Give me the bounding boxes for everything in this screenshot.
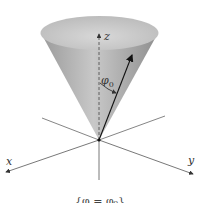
x-axis-label: x <box>6 156 12 167</box>
phi-subscript: 0 <box>109 80 114 89</box>
apex <box>97 138 100 141</box>
front-axes <box>6 140 193 180</box>
cone-svg <box>0 0 200 203</box>
cone-diagram: z x y φ0 {φ = φ₀} <box>0 0 200 203</box>
phi-symbol: φ <box>101 74 109 87</box>
cone-opening <box>41 16 159 50</box>
angle-label: φ0 <box>101 75 114 89</box>
y-axis-label: y <box>188 155 194 166</box>
z-axis-label: z <box>104 31 110 42</box>
caption: {φ = φ₀} <box>0 195 200 203</box>
